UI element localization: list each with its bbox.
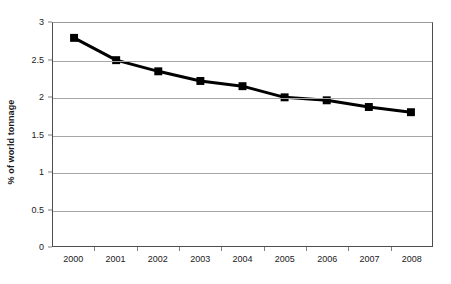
data-series-line (53, 23, 432, 246)
x-tick-label: 2005 (275, 254, 295, 264)
data-point-marker (365, 103, 373, 111)
y-axis-title: % of world tonnage (0, 0, 22, 284)
x-tick-label: 2006 (317, 254, 337, 264)
data-point-marker (70, 34, 78, 42)
x-tick-mark (221, 247, 222, 251)
data-point-marker (407, 108, 415, 116)
x-tick-mark (179, 247, 180, 251)
x-tick-label: 2002 (148, 254, 168, 264)
y-tick-label: 1.5 (31, 130, 44, 140)
data-point-marker (239, 82, 247, 90)
y-axis-tick-labels: 00.511.522.53 (22, 22, 48, 247)
data-point-marker (196, 77, 204, 85)
x-tick-mark (94, 247, 95, 251)
x-axis-tick-labels: 200020012002200320042005200620072008 (52, 247, 433, 277)
x-tick-label: 2001 (105, 254, 125, 264)
y-tick-label: 0.5 (31, 205, 44, 215)
plot-area (52, 22, 433, 247)
x-tick-mark (348, 247, 349, 251)
y-tick-label: 1 (39, 167, 44, 177)
line-chart: % of world tonnage 00.511.522.53 2000200… (0, 0, 451, 284)
x-tick-mark (306, 247, 307, 251)
y-tick-label: 3 (39, 17, 44, 27)
gridline (53, 173, 432, 174)
x-tick-label: 2004 (232, 254, 252, 264)
y-tick-label: 2.5 (31, 55, 44, 65)
y-tick-label: 2 (39, 92, 44, 102)
data-point-marker (154, 67, 162, 75)
x-tick-label: 2007 (359, 254, 379, 264)
y-tick-label: 0 (39, 242, 44, 252)
x-tick-label: 2003 (190, 254, 210, 264)
gridline (53, 61, 432, 62)
x-tick-label: 2000 (63, 254, 83, 264)
series-line (74, 38, 411, 112)
gridline (53, 98, 432, 99)
gridline (53, 211, 432, 212)
gridline (53, 136, 432, 137)
x-tick-mark (264, 247, 265, 251)
x-tick-mark (391, 247, 392, 251)
x-tick-mark (137, 247, 138, 251)
x-tick-label: 2008 (402, 254, 422, 264)
